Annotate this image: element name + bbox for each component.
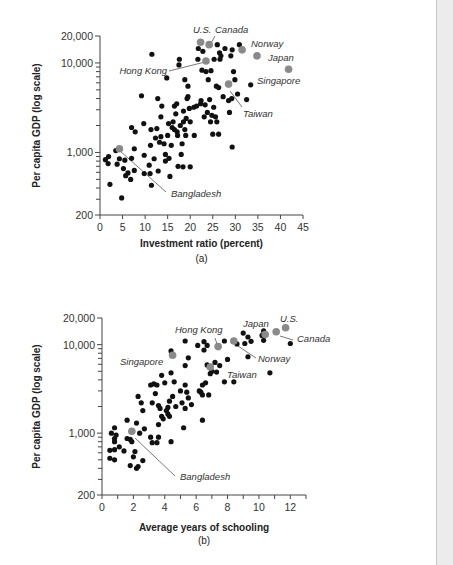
x-tick-label: 12 [284,501,296,513]
chart-b-marks: 2001,00010,00020,000024681012Average yea… [31,312,330,546]
data-point [181,425,186,430]
x-tick-label: 0 [97,221,103,233]
highlight-point-u-s [197,39,205,47]
data-point [159,373,164,378]
highlight-point-canada [205,41,213,49]
data-point [165,405,170,410]
data-point [205,343,210,348]
data-point [235,91,240,96]
data-point [128,463,133,468]
data-point [203,380,208,385]
data-point [187,106,192,111]
x-tick-label: 15 [162,221,174,233]
data-point [216,132,221,137]
data-point [107,448,112,453]
annotation-leader-line [280,336,293,340]
data-point [172,379,177,384]
data-point [166,156,171,161]
highlight-point-taiwan [206,363,214,371]
x-tick-label: 30 [229,221,241,233]
annotation-label: Japan [267,52,294,63]
highlight-point-singapore [285,65,293,73]
data-point [248,339,253,344]
data-point [245,334,250,339]
data-point [177,57,182,62]
data-point [179,400,184,405]
data-point [122,158,127,163]
data-point [182,127,187,132]
data-point [176,62,181,67]
data-point [231,379,236,384]
annotation-label: Taiwan [227,369,257,380]
x-tick-label: 4 [162,501,168,513]
data-point [154,440,159,445]
x-tick-label: 5 [120,221,126,233]
data-point [156,435,161,440]
data-point [129,439,134,444]
highlight-point-japan [261,331,269,339]
data-point [142,171,147,176]
data-point [115,162,120,167]
annotation-label: Canada [215,24,248,35]
chart-caption: (a) [195,253,207,264]
data-point [125,418,130,423]
data-point [139,400,144,405]
data-point [154,382,159,387]
data-point [230,47,235,52]
highlight-point-japan [253,52,261,60]
data-point [158,134,163,139]
data-point [148,143,153,148]
data-point [152,156,157,161]
data-point [150,440,155,445]
data-point [180,141,185,146]
data-point [148,127,153,132]
x-axis-title: Investment ratio (percent) [140,238,263,249]
data-point [214,369,219,374]
data-point [208,68,213,73]
data-point [185,84,190,89]
data-point [229,96,234,101]
data-point [169,143,174,148]
annotation-label: Bangladesh [180,471,230,482]
data-point [178,388,183,393]
data-point [168,439,173,444]
chart-a-investment-vs-gdp: 2001,00010,00020,000051015202530354045In… [0,0,436,282]
data-point [170,394,175,399]
data-point [211,105,216,110]
data-point [114,433,119,438]
data-point [162,380,167,385]
data-point [112,447,117,452]
data-point [167,399,172,404]
data-point [189,402,194,407]
data-point [261,338,266,343]
data-point [198,98,203,103]
y-tick-label: 1,000 [69,427,95,439]
data-point [107,182,112,187]
x-tick-label: 25 [207,221,219,233]
data-point [117,156,122,161]
data-point [149,183,154,188]
data-point [288,341,293,346]
data-point [188,119,193,124]
highlight-point-taiwan [225,80,233,88]
x-tick-label: 8 [225,501,231,513]
page-side-strip [436,0,453,565]
data-point [165,133,170,138]
highlight-point-norway [238,46,246,54]
data-point [212,57,217,62]
data-point [201,347,206,352]
data-point [135,464,140,469]
data-point [134,420,139,425]
data-point [167,414,172,419]
data-point [135,394,140,399]
data-point [128,177,133,182]
data-point [157,406,162,411]
data-point [131,454,136,459]
data-point [132,168,137,173]
highlight-point-norway [230,337,238,345]
x-tick-label: 10 [139,221,151,233]
data-point [137,431,142,436]
data-point [168,370,173,375]
data-point [195,57,200,62]
y-tick-label: 20,000 [63,312,95,324]
